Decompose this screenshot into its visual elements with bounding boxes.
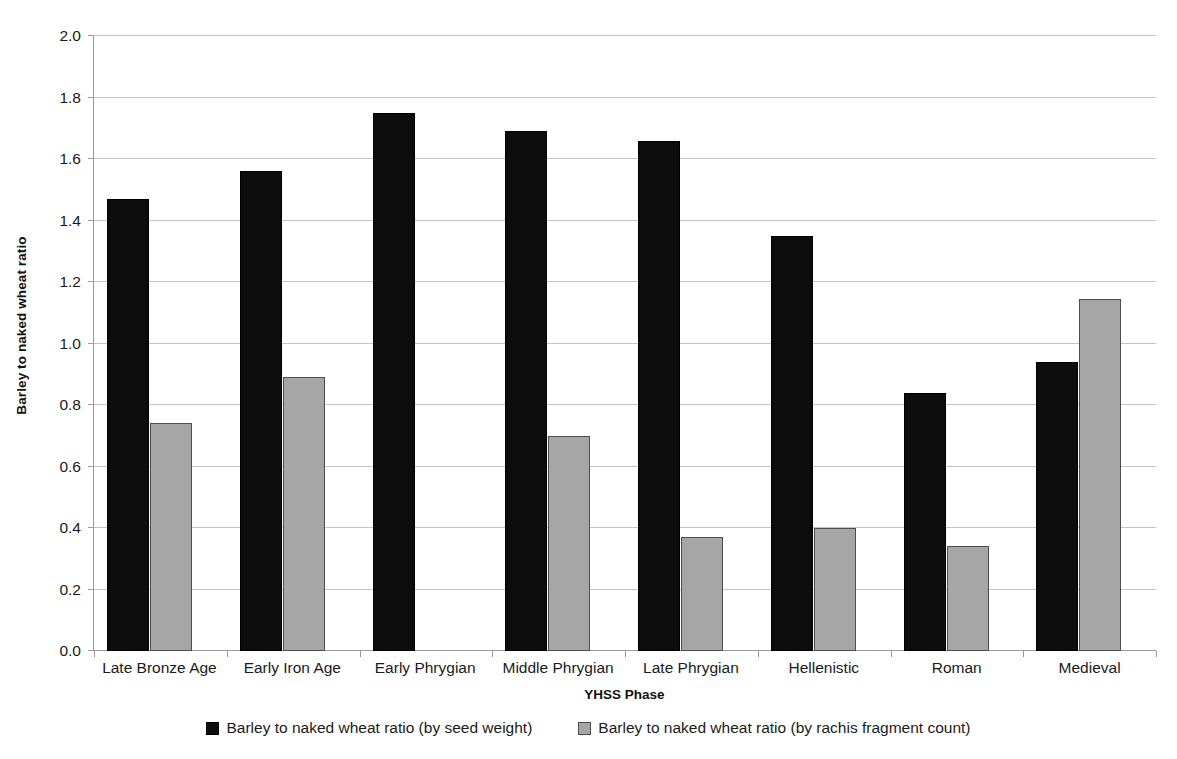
x-tick-mark — [94, 651, 95, 657]
y-tick-label: 2.0 — [10, 27, 94, 45]
x-tick-mark — [891, 651, 892, 657]
y-tick-label: 1.2 — [10, 273, 94, 291]
legend-entry[interactable]: Barley to naked wheat ratio (by seed wei… — [206, 719, 532, 737]
x-tick-mark — [492, 651, 493, 657]
bar[interactable] — [771, 236, 813, 651]
y-tick-label: 1.0 — [10, 335, 94, 353]
bar[interactable] — [373, 113, 415, 651]
legend-swatch-icon — [578, 722, 591, 735]
x-axis-title: YHSS Phase — [93, 687, 1156, 702]
bar[interactable] — [240, 171, 282, 651]
x-axis-label: Late Phrygian — [625, 659, 758, 677]
x-axis-label: Early Iron Age — [226, 659, 359, 677]
bar-group — [891, 36, 1024, 651]
legend-swatch-icon — [206, 722, 219, 735]
bar[interactable] — [1079, 299, 1121, 651]
y-tick-label: 0.2 — [10, 581, 94, 599]
chart-page: Barley to naked wheat ratio 0.00.20.40.6… — [0, 0, 1177, 759]
x-axis-label: Medieval — [1023, 659, 1156, 677]
x-tick-mark — [360, 651, 361, 657]
bar[interactable] — [283, 377, 325, 651]
bar-group — [94, 36, 227, 651]
y-tick-label: 0.6 — [10, 458, 94, 476]
bar[interactable] — [681, 537, 723, 651]
x-axis-label: Early Phrygian — [359, 659, 492, 677]
x-tick-mark — [227, 651, 228, 657]
bar[interactable] — [107, 199, 149, 651]
x-tick-mark — [758, 651, 759, 657]
bar-group — [758, 36, 891, 651]
x-axis-label: Hellenistic — [757, 659, 890, 677]
x-axis-label: Middle Phrygian — [492, 659, 625, 677]
y-tick-label: 0.4 — [10, 519, 94, 537]
y-tick-label: 1.8 — [10, 89, 94, 107]
y-tick-label: 1.4 — [10, 212, 94, 230]
x-tick-mark — [1023, 651, 1024, 657]
legend-label: Barley to naked wheat ratio (by rachis f… — [598, 719, 970, 737]
x-axis-labels: Late Bronze AgeEarly Iron AgeEarly Phryg… — [93, 659, 1156, 677]
bar[interactable] — [814, 528, 856, 651]
y-tick-label: 1.6 — [10, 150, 94, 168]
x-tick-mark — [625, 651, 626, 657]
bar[interactable] — [150, 423, 192, 651]
x-axis-label: Late Bronze Age — [93, 659, 226, 677]
plot-area: 0.00.20.40.60.81.01.21.41.61.82.0 — [93, 36, 1156, 651]
bar[interactable] — [1036, 362, 1078, 651]
x-tick-mark — [1156, 651, 1157, 657]
plot-wrapper: 0.00.20.40.60.81.01.21.41.61.82.0 — [93, 36, 1156, 651]
y-axis-title-label: Barley to naked wheat ratio — [14, 236, 29, 414]
bar-group — [360, 36, 493, 651]
bar-group — [492, 36, 625, 651]
bar[interactable] — [904, 393, 946, 651]
y-tick-label: 0.8 — [10, 396, 94, 414]
bar[interactable] — [548, 436, 590, 651]
x-axis-label: Roman — [890, 659, 1023, 677]
legend-entry[interactable]: Barley to naked wheat ratio (by rachis f… — [578, 719, 970, 737]
bar-group — [227, 36, 360, 651]
y-tick-label: 0.0 — [10, 642, 94, 660]
bar[interactable] — [505, 131, 547, 651]
bar-groups — [94, 36, 1156, 651]
legend-label: Barley to naked wheat ratio (by seed wei… — [226, 719, 532, 737]
bar[interactable] — [638, 141, 680, 651]
bar[interactable] — [947, 546, 989, 651]
bar-group — [625, 36, 758, 651]
bar-group — [1023, 36, 1156, 651]
chart-legend: Barley to naked wheat ratio (by seed wei… — [0, 719, 1177, 737]
